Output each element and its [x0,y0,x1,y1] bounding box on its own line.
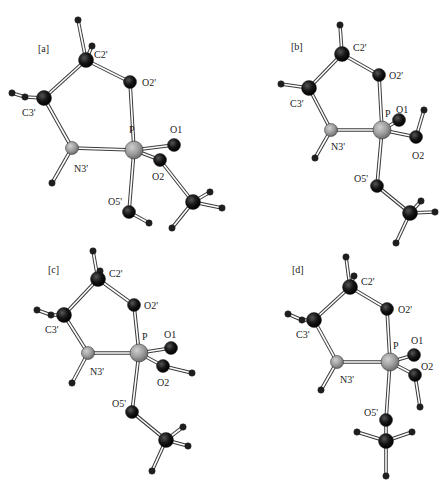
atom-p [381,353,399,371]
panel-a: C2'O2'C3'N3'PO1O2O5'[a] [9,17,225,231]
atom-o1 [393,114,406,127]
atom-o2-prime [128,299,141,312]
atom-p [373,121,391,139]
atom-o2 [157,360,170,373]
atom-o2 [154,154,167,167]
atom-label: O1 [170,124,182,135]
atom-label: O2' [144,300,158,311]
atom-label: N3' [90,366,104,377]
hydrogen-atom [9,90,15,96]
atom-label: C3' [296,329,310,340]
atom-n3-prime [66,142,79,155]
panel-d: C2'O2'C3'N3'PO1O2O5'[d] [285,254,433,479]
atom-o2 [409,369,422,382]
atom-label: C3' [22,107,36,118]
atom-c2-prime [343,280,358,295]
hydrogen-atom [146,220,152,226]
atom-label: O2 [421,361,433,372]
atom-label: O2 [157,377,169,388]
atom-label: O5' [354,173,368,184]
hydrogen-atom [48,312,54,318]
hydrogen-atom [432,209,438,215]
atom-label: N3' [331,141,345,152]
atom-label: O2 [412,150,424,161]
atom-c3-prime [307,313,322,328]
panel-c: C2'O2'C3'N3'PO1O2O5'[c] [34,248,195,474]
atoms [278,22,438,246]
atom-label: O5' [108,196,122,207]
hydrogen-atom [299,317,305,323]
hydrogen-atom [149,468,155,474]
hydrogen-atom [189,370,195,376]
atom-label: O1 [396,104,408,115]
atom-o2 [410,131,423,144]
atom-c2-prime [91,272,106,287]
atom-p [130,344,148,362]
atom-o5-prime [123,206,136,219]
atom-label: C3' [290,98,304,109]
hydrogen-atom [49,180,55,186]
atom-o2-prime [124,76,137,89]
bond-core [44,60,86,98]
atom-label: C3' [45,324,59,335]
atom-c3-prime [57,308,72,323]
hydrogen-atom [169,225,175,231]
atom-c [403,206,418,221]
atom-label: C2' [361,276,375,287]
atom-o2-prime [373,69,386,82]
hydrogen-atom [75,17,81,23]
panel-label: [d] [292,264,304,275]
atom-o1 [408,349,421,362]
hydrogen-atom [180,424,186,430]
atom-label: C2' [94,49,108,60]
hydrogen-atom [421,107,427,113]
atom-label: C2' [353,42,367,53]
atom-label: P [129,124,135,135]
atom-c3-prime [37,91,52,106]
hydrogen-atom [219,205,225,211]
atom-label: O2' [389,70,403,81]
atom-label: N3' [74,163,88,174]
hydrogen-atom [185,443,191,449]
hydrogen-atom [383,473,389,479]
atom-c2-prime [79,53,94,68]
atom-n3-prime [331,356,344,369]
atom-label: N3' [340,374,354,385]
atom-n3-prime [325,124,338,137]
hydrogen-atom [278,81,284,87]
atom-o5-prime [380,414,393,427]
hydrogen-atom [285,311,291,317]
hydrogen-atom [337,22,343,28]
atom-label: P [385,108,391,119]
hydrogen-atom [351,273,357,279]
hydrogen-atom [207,189,213,195]
atom-o1 [165,342,178,355]
atom-label: O2 [152,171,164,182]
atom-label: O5' [364,407,378,418]
bond-core [160,160,193,202]
atom-label: P [393,340,399,351]
atom-label: O2' [142,77,156,88]
panel-label: [b] [291,41,303,52]
atom-p [125,141,143,159]
atom-label: O2' [398,304,412,315]
hydrogen-atom [90,248,96,254]
panel-b: C2'O2'C3'N3'PO1O2O5'[b] [278,22,438,246]
hydrogen-atom [69,380,75,386]
atom-o1 [168,139,181,152]
atom-o2-prime [381,303,394,316]
atom-o5-prime [371,180,384,193]
hydrogen-atom [393,240,399,246]
hydrogen-atom [418,198,424,204]
atom-label: O1 [164,329,176,340]
hydrogen-atom [417,404,423,410]
panel-label: [c] [48,264,59,275]
atom-c2-prime [335,47,350,62]
atom-c [186,195,201,210]
atom-label: O1 [411,335,423,346]
bond-core [44,98,72,148]
atom-label: P [142,331,148,342]
hydrogen-atom [343,254,349,260]
hydrogen-atom [312,155,318,161]
molecular-structures-figure: C2'O2'C3'N3'PO1O2O5'[a] C2'O2'C3'N3'PO1O… [0,0,447,491]
